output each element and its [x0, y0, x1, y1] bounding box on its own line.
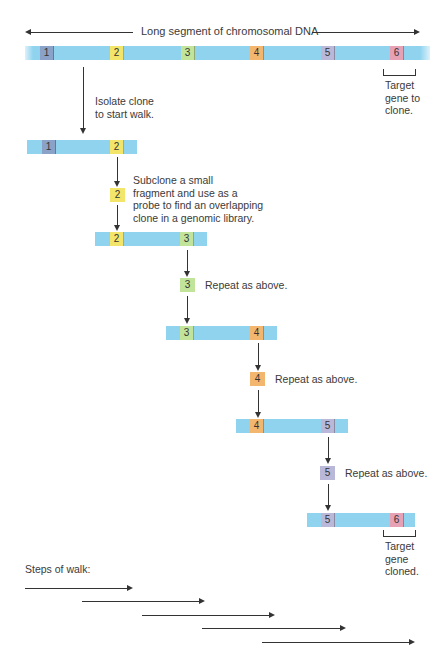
- target-gene-bracket: [383, 69, 416, 76]
- clone-5-marker-left: 5: [321, 513, 335, 527]
- marker-6: 6: [390, 46, 404, 60]
- clone-3-bar: 3 4: [166, 326, 277, 340]
- marker-2: 2: [110, 46, 124, 60]
- subclone-label: Subclone a small fragment and use as a p…: [133, 174, 263, 224]
- marker-3: 3: [181, 46, 195, 60]
- arrow-down-icon: [80, 128, 86, 134]
- arrow-line: [117, 205, 118, 226]
- clone-5-marker-right: 6: [390, 513, 404, 527]
- marker-5: 5: [321, 46, 335, 60]
- marker-1: 1: [40, 46, 54, 60]
- dna-span-line-right: [312, 32, 415, 33]
- isolate-label: Isolate clone to start walk.: [95, 95, 154, 120]
- clone-1-bar: 1 2: [27, 140, 137, 154]
- arrow-line: [187, 250, 188, 272]
- clone-1-marker-right: 2: [110, 140, 124, 154]
- arrow-line: [258, 390, 259, 413]
- clone-2-marker-right: 3: [180, 232, 194, 246]
- probe-5: 5: [320, 466, 335, 480]
- arrow-line: [187, 296, 188, 319]
- repeat-label-4: Repeat as above.: [275, 373, 357, 386]
- repeat-label-3: Repeat as above.: [205, 279, 287, 292]
- isolate-arrow-line: [83, 67, 84, 129]
- arrow-right-icon: [269, 612, 275, 618]
- arrow-down-icon: [255, 365, 261, 371]
- arrow-right-icon: [414, 29, 420, 35]
- arrow-down-icon: [114, 225, 120, 231]
- walk-step-1: [25, 588, 128, 589]
- arrow-right-icon: [340, 625, 346, 631]
- clone-1-marker-left: 1: [42, 140, 56, 154]
- probe-3: 3: [180, 278, 195, 292]
- marker-4: 4: [250, 46, 264, 60]
- arrow-down-icon: [184, 271, 190, 277]
- clone-4-marker-left: 4: [250, 419, 264, 433]
- walk-step-5: [262, 642, 410, 643]
- target-gene-label: Target gene to clone.: [385, 79, 420, 117]
- arrow-line: [117, 157, 118, 182]
- dna-title: Long segment of chromosomal DNA: [141, 25, 318, 38]
- arrow-right-icon: [127, 585, 133, 591]
- chromosomal-dna-bar: 1 2 3 4 5 6: [25, 46, 430, 60]
- dna-span-line-left: [30, 32, 133, 33]
- arrow-left-icon: [25, 29, 31, 35]
- clone-2-marker-left: 2: [110, 232, 124, 246]
- arrow-line: [258, 343, 259, 366]
- arrow-down-icon: [325, 458, 331, 464]
- arrow-down-icon: [255, 412, 261, 418]
- clone-4-marker-right: 5: [321, 419, 335, 433]
- steps-of-walk-label: Steps of walk:: [25, 563, 90, 576]
- walk-step-3: [142, 615, 270, 616]
- clone-3-marker-left: 3: [180, 326, 194, 340]
- probe-4: 4: [250, 372, 265, 386]
- arrow-down-icon: [114, 181, 120, 187]
- arrow-down-icon: [184, 318, 190, 324]
- clone-3-marker-right: 4: [250, 326, 264, 340]
- arrow-line: [328, 484, 329, 506]
- cloned-gene-bracket: [383, 530, 416, 537]
- arrow-right-icon: [199, 598, 205, 604]
- probe-2: 2: [110, 188, 125, 202]
- walk-step-4: [202, 628, 341, 629]
- walk-step-2: [82, 601, 200, 602]
- arrow-right-icon: [409, 639, 415, 645]
- clone-4-bar: 4 5: [236, 419, 348, 433]
- arrow-line: [328, 437, 329, 459]
- clone-5-bar: 5 6: [307, 513, 415, 527]
- clone-2-bar: 2 3: [95, 232, 207, 246]
- arrow-down-icon: [325, 505, 331, 511]
- target-cloned-label: Target gene cloned.: [385, 540, 419, 578]
- repeat-label-5: Repeat as above.: [345, 467, 427, 480]
